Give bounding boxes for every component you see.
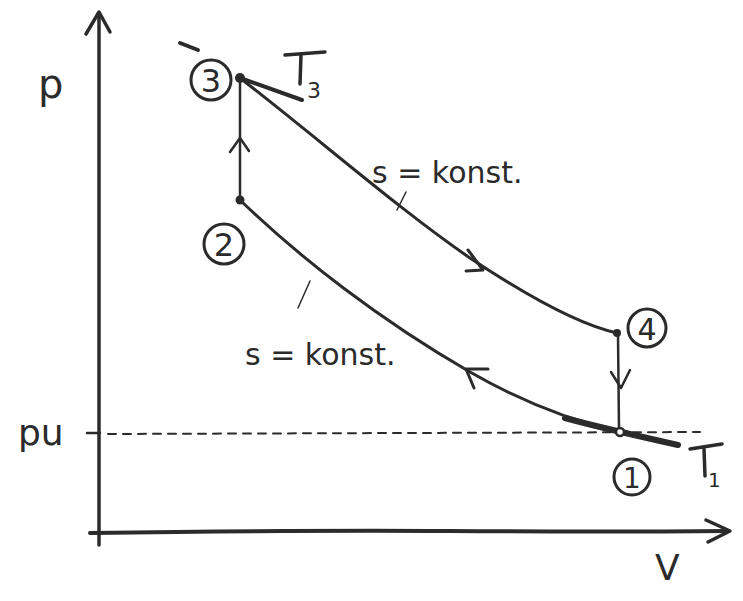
process-1-2 (240, 200, 620, 432)
isotherm-t3-stub-left (180, 43, 198, 50)
state-label-3: 3 (191, 60, 231, 100)
state-label-4: 4 (628, 309, 666, 347)
state-label-1: 1 (614, 459, 650, 495)
state-point-4 (613, 329, 621, 337)
process-3-4 (240, 78, 617, 333)
t1-label: T 1 (690, 444, 722, 492)
svg-text:3: 3 (201, 62, 221, 100)
arrow-down-icon (611, 370, 630, 388)
upper-isentrope-label: s = konst. (372, 155, 522, 190)
pv-diagram: p V pu s = konst. s = konst. T 3 (0, 0, 743, 601)
process-4-1 (611, 335, 630, 430)
process-2-3 (230, 80, 249, 200)
label-leader-lower (298, 281, 310, 308)
x-axis-label: V (655, 547, 680, 588)
state-label-2: 2 (204, 224, 244, 264)
state-point-2 (236, 196, 245, 205)
svg-text:2: 2 (214, 226, 234, 264)
isotherm-t3-tangent (240, 78, 302, 100)
y-axis (86, 12, 110, 545)
svg-text:1: 1 (623, 462, 641, 495)
lower-isentrope-label: s = konst. (245, 337, 395, 372)
state-point-1 (616, 428, 624, 436)
svg-text:3: 3 (307, 78, 321, 103)
arrow-down-right-icon (466, 250, 483, 271)
state-point-3 (235, 73, 245, 83)
x-axis (90, 520, 730, 542)
y-axis-label: p (38, 61, 63, 107)
pu-label: pu (18, 412, 64, 453)
svg-text:4: 4 (637, 312, 656, 347)
svg-text:1: 1 (708, 468, 721, 492)
